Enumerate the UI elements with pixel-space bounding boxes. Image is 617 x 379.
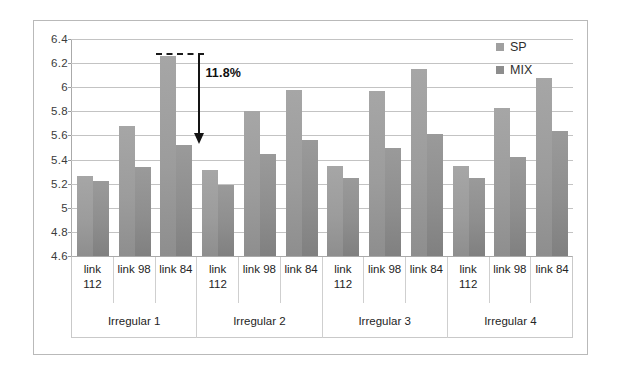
bar-mix-1 [135, 167, 151, 256]
category-group-label: Irregular 1 [108, 315, 160, 327]
legend-swatch-mix-icon [496, 66, 504, 74]
y-axis-tick-label: 6.2 [34, 57, 68, 69]
category-group-row: Irregular 1Irregular 2Irregular 3Irregul… [72, 303, 572, 338]
category-tick-cell: link 84 [156, 257, 198, 303]
bar-sp-4 [244, 111, 260, 256]
category-group-label: Irregular 3 [358, 315, 410, 327]
bar-sp-0 [77, 176, 93, 256]
y-axis-labels: 6.46.265.85.65.45.254.84.6 [32, 39, 68, 256]
legend-item-sp: SP [496, 37, 576, 57]
category-tick-label: link 112 [334, 262, 352, 292]
category-tick-cell: link 84 [281, 257, 323, 303]
bar-mix-6 [343, 178, 359, 256]
category-group-cell: Irregular 2 [197, 303, 322, 338]
bar-sp-9 [453, 166, 469, 256]
category-tick-label: link 84 [536, 262, 569, 277]
category-tick-label: link 98 [493, 262, 526, 277]
category-tick-label: link 84 [285, 262, 318, 277]
legend-swatch-sp-icon [496, 43, 504, 51]
category-tick-label: link 112 [83, 262, 101, 292]
category-tick-label: link 112 [459, 262, 477, 292]
bar-mix-10 [510, 157, 526, 256]
bar-sp-5 [286, 90, 302, 256]
category-group-label: Irregular 2 [233, 315, 285, 327]
bar-sp-10 [494, 108, 510, 256]
y-axis-tick-label: 5.6 [34, 129, 68, 141]
bar-mix-9 [469, 178, 485, 256]
category-tick-label: link 112 [208, 262, 226, 292]
category-tick-cell: link 98 [364, 257, 406, 303]
category-group-label: Irregular 4 [484, 315, 536, 327]
category-tick-label: link 98 [118, 262, 151, 277]
y-axis-tick-label: 5.4 [34, 154, 68, 166]
category-tick-label: link 84 [159, 262, 192, 277]
bar-sp-2 [160, 56, 176, 256]
category-group-cell: Irregular 4 [448, 303, 573, 338]
legend-item-mix: MIX [496, 60, 576, 80]
category-tick-cell: link 112 [72, 257, 114, 303]
legend-label-mix: MIX [510, 63, 532, 77]
bar-mix-4 [260, 154, 276, 256]
category-tick-cell: link 98 [239, 257, 281, 303]
category-tick-cell: link 112 [448, 257, 490, 303]
category-tick-label: link 84 [410, 262, 443, 277]
y-axis-tick-label: 6 [34, 81, 68, 93]
bar-mix-2 [176, 145, 192, 256]
category-group-cell: Irregular 1 [72, 303, 197, 338]
category-tick-cell: link 84 [531, 257, 573, 303]
bar-sp-7 [369, 91, 385, 256]
category-axis: link 112link 98link 84link 112link 98lin… [71, 256, 573, 338]
bar-mix-11 [552, 131, 568, 256]
category-group-cell: Irregular 3 [323, 303, 448, 338]
category-tick-cell: link 98 [114, 257, 156, 303]
category-tick-cell: link 84 [406, 257, 448, 303]
category-tick-label: link 98 [368, 262, 401, 277]
category-tick-label: link 98 [243, 262, 276, 277]
chart-legend: SP MIX [496, 37, 576, 83]
y-axis-tick-label: 6.4 [34, 33, 68, 45]
bar-mix-8 [427, 134, 443, 256]
bar-mix-3 [218, 185, 234, 256]
category-tick-cell: link 98 [490, 257, 532, 303]
category-tick-cell: link 112 [323, 257, 365, 303]
bar-sp-8 [411, 69, 427, 256]
bar-mix-0 [93, 181, 109, 256]
legend-label-sp: SP [510, 40, 527, 54]
bar-sp-1 [119, 126, 135, 256]
y-axis-tick-label: 5 [34, 202, 68, 214]
y-axis-tick-label: 5.2 [34, 178, 68, 190]
bar-sp-11 [536, 78, 552, 256]
bar-mix-5 [302, 140, 318, 256]
y-axis-tick-label: 4.8 [34, 226, 68, 238]
chart-frame: 6.46.265.85.65.45.254.84.6 11.8% SP MIX … [33, 20, 588, 355]
y-axis-tick-label: 5.8 [34, 105, 68, 117]
y-axis-tick-label: 4.6 [34, 250, 68, 262]
bar-sp-6 [327, 166, 343, 256]
bar-sp-3 [202, 170, 218, 256]
category-tick-cell: link 112 [197, 257, 239, 303]
bar-mix-7 [385, 148, 401, 257]
category-tick-row: link 112link 98link 84link 112link 98lin… [72, 257, 572, 303]
